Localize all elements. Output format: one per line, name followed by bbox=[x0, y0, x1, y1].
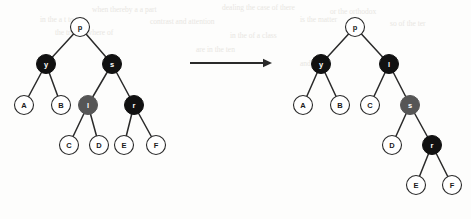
node-label: l bbox=[87, 101, 89, 110]
tree-diagram-canvas: when thereby a a partdealing the case of… bbox=[0, 0, 471, 219]
node-label: B bbox=[337, 101, 343, 110]
node-label: A bbox=[21, 101, 27, 110]
tree-node-r[interactable]: r bbox=[423, 136, 442, 155]
tree-node-p[interactable]: p bbox=[71, 18, 90, 37]
tree-node-E[interactable]: E bbox=[115, 136, 134, 155]
tree-node-p[interactable]: p bbox=[346, 18, 365, 37]
tree-node-D[interactable]: D bbox=[383, 136, 402, 155]
arrow-head bbox=[263, 59, 272, 67]
tree-node-A[interactable]: A bbox=[15, 96, 34, 115]
transformation-arrow bbox=[190, 59, 272, 67]
bleed-text-line: when thereby a a part bbox=[92, 5, 157, 14]
bleed-text-line: contrast and attention bbox=[150, 17, 215, 26]
bleed-text-line: dealing the case of there bbox=[222, 3, 296, 12]
node-label: A bbox=[300, 101, 306, 110]
node-label: l bbox=[388, 60, 390, 69]
bleed-text-line: in the of a class bbox=[230, 31, 277, 40]
tree-node-B[interactable]: B bbox=[52, 96, 71, 115]
node-label: D bbox=[389, 141, 395, 150]
bleed-text-line: are in the ten bbox=[196, 45, 235, 54]
tree-node-B[interactable]: B bbox=[331, 96, 350, 115]
tree-node-r[interactable]: r bbox=[125, 96, 144, 115]
tree-node-F[interactable]: F bbox=[443, 176, 462, 195]
before-rotation-tree: pysABlrCDEF bbox=[15, 18, 166, 155]
node-label: F bbox=[154, 141, 159, 150]
node-label: r bbox=[133, 101, 136, 110]
after-rotation-tree: pylABCsDrEF bbox=[294, 18, 462, 195]
node-label: C bbox=[66, 141, 72, 150]
tree-node-s[interactable]: s bbox=[401, 96, 420, 115]
bleed-text-line: is the matter bbox=[300, 15, 338, 24]
tree-node-s[interactable]: s bbox=[103, 55, 122, 74]
tree-node-l[interactable]: l bbox=[79, 96, 98, 115]
tree-node-E[interactable]: E bbox=[407, 176, 426, 195]
node-label: p bbox=[78, 23, 83, 32]
node-label: D bbox=[96, 141, 102, 150]
node-label: E bbox=[413, 181, 418, 190]
tree-node-A[interactable]: A bbox=[294, 96, 313, 115]
node-label: s bbox=[110, 60, 114, 69]
paper-bleed-through-text: when thereby a a partdealing the case of… bbox=[40, 3, 426, 68]
bleed-text-line: in the a t to bbox=[40, 15, 74, 24]
tree-node-y[interactable]: y bbox=[312, 55, 331, 74]
tree-rotation-figure: when thereby a a partdealing the case of… bbox=[0, 0, 471, 219]
node-label: E bbox=[121, 141, 126, 150]
node-label: p bbox=[353, 23, 358, 32]
tree-node-D[interactable]: D bbox=[90, 136, 109, 155]
node-label: s bbox=[408, 101, 412, 110]
tree-node-y[interactable]: y bbox=[37, 55, 56, 74]
node-label: r bbox=[431, 141, 434, 150]
tree-node-C[interactable]: C bbox=[60, 136, 79, 155]
node-label: C bbox=[367, 101, 373, 110]
node-label: B bbox=[58, 101, 64, 110]
tree-node-C[interactable]: C bbox=[361, 96, 380, 115]
node-label: F bbox=[450, 181, 455, 190]
tree-node-F[interactable]: F bbox=[147, 136, 166, 155]
bleed-text-line: so of the ter bbox=[390, 19, 426, 28]
tree-node-l[interactable]: l bbox=[380, 55, 399, 74]
